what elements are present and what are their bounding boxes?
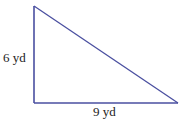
height-label: 6 yd [3,51,26,64]
hypotenuse [34,6,178,103]
right-triangle-diagram [0,0,180,119]
base-label: 9 yd [93,105,116,118]
